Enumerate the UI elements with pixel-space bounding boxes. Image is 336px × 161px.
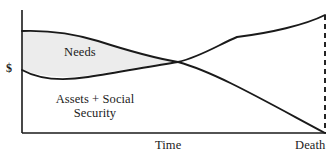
- y-axis-label: $: [6, 62, 12, 75]
- assets-label-line-2: Security: [74, 106, 116, 120]
- needs-region-label: Needs: [64, 45, 96, 59]
- x-axis-end-label: Death: [295, 138, 325, 152]
- assets-label-line-1: Assets + Social: [56, 92, 135, 106]
- chart-plot-area: [0, 0, 336, 161]
- needs-shaded-region: [22, 31, 178, 77]
- assets-region-label: Assets + SocialSecurity: [41, 92, 149, 120]
- chart-figure: $ Needs Assets + SocialSecurity Time Dea…: [0, 0, 336, 161]
- x-axis-label: Time: [155, 138, 181, 152]
